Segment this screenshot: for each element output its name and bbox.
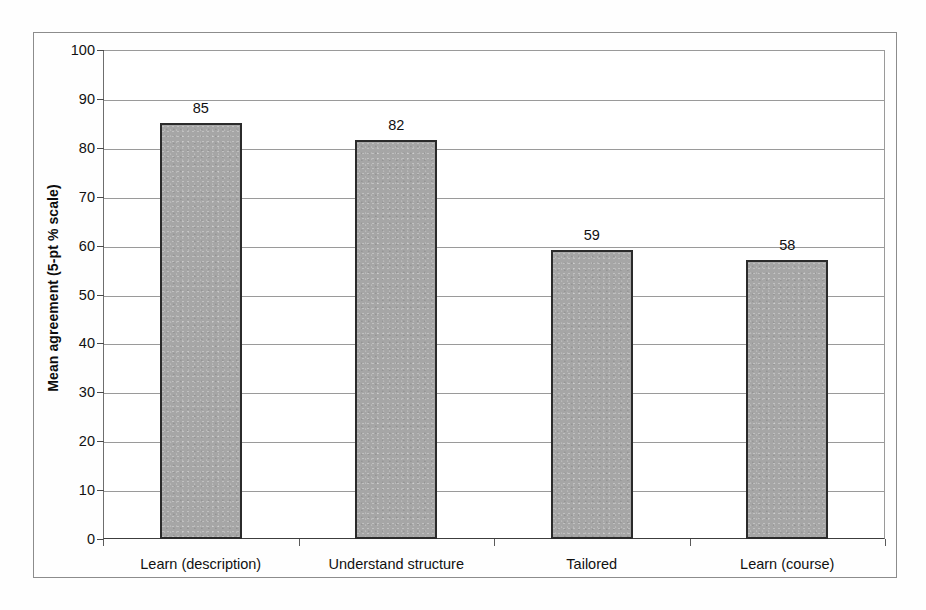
x-tick-label: Tailored: [566, 556, 617, 572]
bar: [746, 260, 828, 539]
bar: [551, 250, 633, 539]
x-tick-label: Learn (description): [140, 556, 261, 572]
bar-value-label: 82: [388, 117, 404, 133]
x-tick-mark: [690, 539, 691, 546]
x-tick-mark: [299, 539, 300, 546]
x-tick-label: Learn (course): [740, 556, 834, 572]
x-tick-label: Understand structure: [329, 556, 464, 572]
bar-value-label: 58: [779, 237, 795, 253]
x-tick-mark: [103, 539, 104, 546]
bar: [355, 140, 437, 539]
gridline: [104, 100, 884, 101]
figure-root: Mean agreement (5-pt % scale) 0102030405…: [0, 0, 926, 610]
bar-value-label: 59: [584, 227, 600, 243]
bar-value-label: 85: [193, 100, 209, 116]
x-tick-mark: [885, 539, 886, 546]
bar: [160, 123, 242, 539]
x-tick-mark: [494, 539, 495, 546]
